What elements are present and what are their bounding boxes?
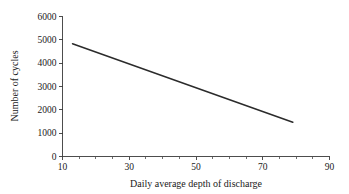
- x-axis-tick-labels: 1030507090: [58, 162, 335, 172]
- x-tick-label: 30: [125, 162, 135, 172]
- series-line-0: [73, 44, 293, 122]
- chart-figure: 0100020003000400050006000 1030507090 Dai…: [0, 0, 349, 194]
- y-axis-title: Number of cycles: [9, 50, 20, 121]
- x-tick-label: 90: [325, 162, 335, 172]
- y-tick-label: 6000: [38, 12, 57, 22]
- x-axis-title: Daily average depth of discharge: [130, 178, 263, 189]
- x-tick-label: 70: [258, 162, 268, 172]
- data-series-group: [73, 44, 293, 122]
- y-tick-label: 0: [52, 152, 57, 162]
- y-tick-label: 5000: [38, 35, 57, 45]
- line-chart-canvas: 0100020003000400050006000 1030507090 Dai…: [0, 0, 349, 194]
- y-tick-label: 3000: [38, 82, 57, 92]
- y-tick-label: 2000: [38, 105, 57, 115]
- y-tick-label: 1000: [38, 128, 57, 138]
- y-axis-ticks: [59, 17, 62, 157]
- x-tick-label: 50: [191, 162, 201, 172]
- y-axis-tick-labels: 0100020003000400050006000: [38, 12, 57, 162]
- x-tick-label: 10: [58, 162, 68, 172]
- x-axis-ticks: [63, 157, 330, 161]
- y-tick-label: 4000: [38, 58, 57, 68]
